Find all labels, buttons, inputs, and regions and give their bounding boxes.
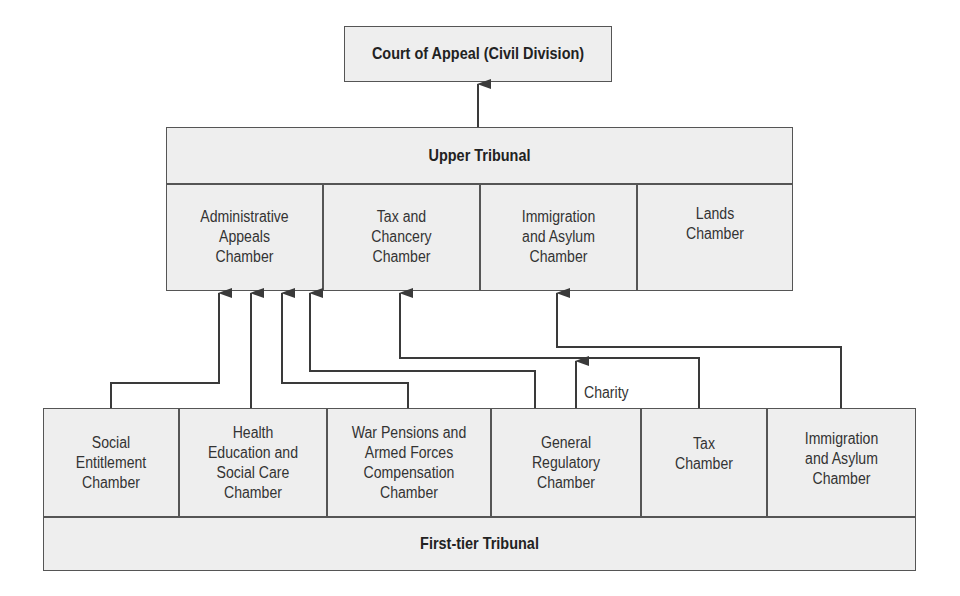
- arrow-general-to-admin: [310, 293, 535, 408]
- arrow-tax-to-chancery: [400, 293, 699, 408]
- connector-arrows: [0, 0, 960, 596]
- arrow-social-to-admin: [111, 293, 219, 408]
- charity-label: Charity: [584, 384, 629, 402]
- arrow-war-to-admin: [282, 293, 408, 408]
